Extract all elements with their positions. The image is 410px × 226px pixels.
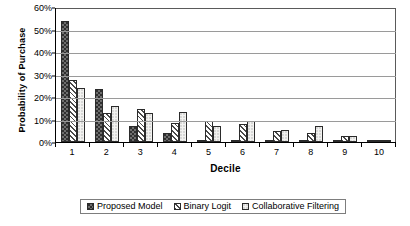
bar	[383, 140, 391, 142]
y-tick-label: 50%	[20, 26, 52, 35]
bar	[129, 126, 137, 142]
y-tick-label: 30%	[20, 71, 52, 80]
x-tick-mark	[293, 143, 294, 147]
legend-swatch-icon	[242, 203, 249, 210]
x-tick-mark	[327, 143, 328, 147]
bar	[61, 21, 69, 143]
x-tick-label: 5	[191, 148, 225, 157]
y-tick-label: 40%	[20, 49, 52, 58]
x-tick-label: 8	[294, 148, 328, 157]
gridline	[56, 76, 396, 77]
x-tick-label: 3	[123, 148, 157, 157]
gridline	[56, 53, 396, 54]
gridline	[56, 98, 396, 99]
gridline	[56, 8, 396, 9]
bar	[197, 140, 205, 142]
bar	[137, 109, 145, 142]
chart-legend: Proposed ModelBinary LogitCollaborative …	[80, 199, 346, 214]
x-tick-label: 2	[89, 148, 123, 157]
legend-item[interactable]: Collaborative Filtering	[242, 202, 339, 211]
bar	[349, 136, 357, 142]
x-tick-label: 7	[260, 148, 294, 157]
x-tick-mark	[191, 143, 192, 147]
x-tick: 6	[225, 143, 259, 157]
x-tick-mark	[395, 143, 396, 147]
bar	[77, 88, 85, 142]
x-tick-label: 4	[157, 148, 191, 157]
bar	[179, 112, 187, 142]
legend-item[interactable]: Proposed Model	[87, 202, 163, 211]
y-tick-label: 60%	[20, 4, 52, 13]
legend-swatch-icon	[87, 203, 94, 210]
bar	[315, 126, 323, 142]
x-tick-label: 6	[225, 148, 259, 157]
legend-label: Binary Logit	[184, 202, 232, 211]
x-tick-mark	[55, 143, 56, 147]
bar	[247, 121, 255, 142]
gridline	[56, 31, 396, 32]
bar	[367, 140, 375, 142]
bar	[341, 136, 349, 142]
bar	[281, 130, 289, 142]
y-axis-ticks: 0%10%20%30%40%50%60%	[20, 8, 52, 143]
bar	[333, 140, 341, 142]
x-tick-mark	[157, 143, 158, 147]
legend-item[interactable]: Binary Logit	[174, 202, 232, 211]
x-tick-mark	[259, 143, 260, 147]
bar	[375, 140, 383, 142]
y-tick-label: 20%	[20, 94, 52, 103]
x-tick: 3	[123, 143, 157, 157]
bar	[171, 123, 179, 142]
bar	[145, 113, 153, 142]
bar	[273, 131, 281, 142]
x-tick: 10	[362, 143, 396, 157]
bar	[205, 121, 213, 142]
x-tick-label: 10	[362, 148, 396, 157]
gridline	[56, 121, 396, 122]
x-tick: 4	[157, 143, 191, 157]
bar	[103, 113, 111, 142]
x-tick: 1	[55, 143, 89, 157]
x-tick: 2	[89, 143, 123, 157]
x-tick-label: 9	[328, 148, 362, 157]
y-tick-label: 0%	[20, 139, 52, 148]
legend-label: Proposed Model	[97, 202, 163, 211]
x-tick: 8	[294, 143, 328, 157]
plot-area	[55, 8, 396, 143]
x-tick: 5	[191, 143, 225, 157]
bar	[239, 124, 247, 142]
bar	[231, 140, 239, 142]
bar	[299, 140, 307, 142]
bar	[307, 133, 315, 142]
x-tick-mark	[123, 143, 124, 147]
bar	[69, 80, 77, 142]
x-axis-title: Decile	[55, 163, 396, 174]
x-tick: 7	[260, 143, 294, 157]
x-tick-mark	[361, 143, 362, 147]
legend-swatch-icon	[174, 203, 181, 210]
bar	[265, 140, 273, 142]
x-tick-mark	[89, 143, 90, 147]
y-tick-label: 10%	[20, 116, 52, 125]
x-tick-label: 1	[55, 148, 89, 157]
bar	[213, 126, 221, 142]
x-tick-mark	[225, 143, 226, 147]
x-tick: 9	[328, 143, 362, 157]
bar	[111, 106, 119, 142]
legend-label: Collaborative Filtering	[252, 202, 339, 211]
x-axis-ticks: 12345678910	[55, 143, 396, 157]
bar	[163, 133, 171, 142]
bar-chart: Probability of Purchase 0%10%20%30%40%50…	[0, 0, 410, 226]
